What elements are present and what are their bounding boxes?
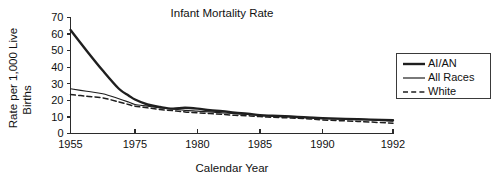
x-axis-title: Calendar Year xyxy=(196,162,269,174)
y-tick-label: 10 xyxy=(51,111,63,123)
chart-canvas: Infant Mortality Rate Rate per 1,000 Liv… xyxy=(0,0,504,180)
y-tick-label: 60 xyxy=(51,28,63,40)
x-tick-label: 1992 xyxy=(381,138,405,150)
y-tick-label: 50 xyxy=(51,44,63,56)
y-axis-ticks: 010203040506070 xyxy=(51,11,70,139)
x-axis-ticks: 195519751980198519901992 xyxy=(58,129,405,150)
chart-title: Infant Mortality Rate xyxy=(171,7,274,19)
y-axis-title: Rate per 1,000 Live Births xyxy=(7,28,33,128)
x-tick-label: 1955 xyxy=(58,138,82,150)
x-tick-label: 1985 xyxy=(248,138,272,150)
y-tick-label: 40 xyxy=(51,61,63,73)
y-tick-label: 70 xyxy=(51,11,63,23)
series-line-all-races xyxy=(71,89,394,121)
x-tick-label: 1990 xyxy=(310,138,334,150)
x-tick-label: 1980 xyxy=(185,138,209,150)
y-axis-title-line1: Rate per 1,000 Live xyxy=(7,28,19,128)
series-line-ai-an xyxy=(71,30,394,120)
series-group xyxy=(71,30,394,123)
legend: AI/ANAll RacesWhite xyxy=(397,54,491,99)
y-tick-label: 20 xyxy=(51,94,63,106)
legend-label-all-races: All Races xyxy=(428,71,475,83)
infant-mortality-chart-figure: Infant Mortality Rate Rate per 1,000 Liv… xyxy=(0,0,504,180)
x-tick-label: 1975 xyxy=(123,138,147,150)
y-axis-title-line2: Births xyxy=(21,85,33,115)
legend-label-white: White xyxy=(428,85,456,97)
y-tick-label: 30 xyxy=(51,78,63,90)
legend-label-ai-an: AI/AN xyxy=(428,57,457,69)
